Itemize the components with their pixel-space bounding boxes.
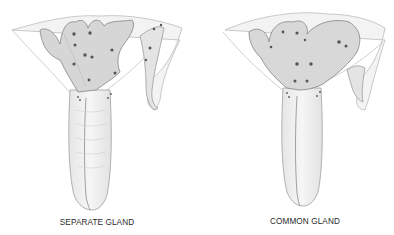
- caption-common-gland: COMMON GLAND: [197, 217, 394, 226]
- figure-separate-gland: SEPARATE GLAND: [0, 0, 197, 235]
- separate-gland-illustration: [0, 0, 197, 235]
- common-gland-illustration: [197, 0, 394, 235]
- figure-common-gland: COMMON GLAND: [197, 0, 394, 235]
- caption-separate-gland: SEPARATE GLAND: [0, 218, 194, 227]
